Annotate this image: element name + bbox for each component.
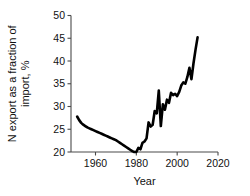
- y-tick-label: 30: [53, 100, 65, 112]
- y-tick-label: 25: [53, 123, 65, 135]
- y-tick-label: 35: [53, 77, 65, 89]
- y-tick-label: 45: [53, 32, 65, 44]
- x-tick-label: 1960: [84, 157, 108, 169]
- y-tick-label: 40: [53, 55, 65, 67]
- y-tick-label: 50: [53, 9, 65, 21]
- x-axis-title: Year: [133, 175, 156, 187]
- y-axis-title-line-2: import, %: [19, 60, 31, 107]
- line-chart: 202530354045501960198020002020 YearN exp…: [0, 0, 250, 196]
- chart-figure: 202530354045501960198020002020 YearN exp…: [0, 0, 250, 196]
- x-tick-label: 1980: [125, 157, 149, 169]
- y-axis-title-line-1: N export as a fraction of: [6, 24, 18, 142]
- x-tick-label: 2000: [165, 157, 189, 169]
- x-tick-label: 2020: [206, 157, 230, 169]
- y-tick-label: 20: [53, 146, 65, 158]
